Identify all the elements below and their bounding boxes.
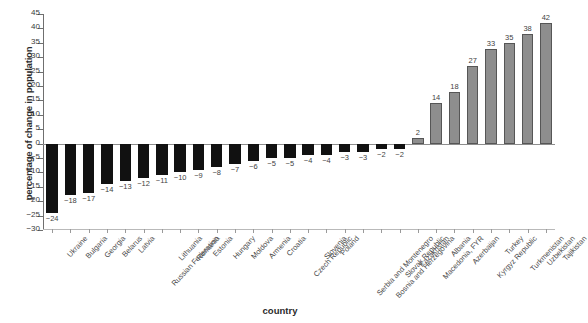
bar [302, 144, 313, 156]
bar-value-label: −2 [385, 150, 414, 159]
bar-value-label: 42 [531, 13, 560, 22]
x-tick-mark [89, 229, 90, 233]
x-tick-mark [107, 229, 108, 233]
y-tick-label: −25 [16, 210, 40, 219]
bar [540, 23, 551, 144]
x-tick-mark [528, 229, 529, 233]
bar-value-label: 38 [513, 24, 542, 33]
x-axis-labels: UkraineBulgariaGeorgiaBelarusLatviaRussi… [43, 234, 555, 304]
bar [211, 144, 222, 167]
x-tick-mark [144, 229, 145, 233]
bar [449, 92, 460, 144]
bar-value-label: 2 [403, 128, 432, 137]
y-tick-label: 5 [16, 123, 40, 132]
bar [339, 144, 350, 153]
bar [101, 144, 112, 184]
x-tick-mark [326, 229, 327, 233]
x-axis-title: country [0, 305, 560, 316]
x-tick-mark [162, 229, 163, 233]
x-tick-mark [345, 229, 346, 233]
x-tick-mark [290, 229, 291, 233]
bar [485, 49, 496, 144]
x-tick-mark [400, 229, 401, 233]
y-tick-label: 40 [16, 22, 40, 31]
bar [65, 144, 76, 196]
bar [394, 144, 405, 150]
y-tick-label: 45 [16, 8, 40, 17]
bar [522, 34, 533, 143]
x-tick-mark [272, 229, 273, 233]
x-tick-mark [198, 229, 199, 233]
y-tick-label: −30 [16, 224, 40, 233]
x-tick-mark [180, 229, 181, 233]
bar [138, 144, 149, 179]
bar [504, 43, 515, 144]
y-tick-label: 30 [16, 51, 40, 60]
y-tick-label: −5 [16, 152, 40, 161]
bar [174, 144, 185, 173]
x-tick-mark [235, 229, 236, 233]
y-tick-label: 10 [16, 109, 40, 118]
y-tick-label: 15 [16, 94, 40, 103]
x-tick-mark [381, 229, 382, 233]
x-tick-mark [253, 229, 254, 233]
x-tick-mark [418, 229, 419, 233]
bar [120, 144, 131, 181]
x-tick-mark [546, 229, 547, 233]
y-tick-label: 20 [16, 80, 40, 89]
bar [193, 144, 204, 170]
plot-bottom-line [43, 229, 555, 230]
x-tick-mark [52, 229, 53, 233]
x-tick-mark [436, 229, 437, 233]
plot-area: 454035302520151050−5−10−15−20−25−30 −24−… [43, 14, 555, 230]
bar [376, 144, 387, 150]
x-tick-mark [217, 229, 218, 233]
y-axis-line [43, 14, 44, 230]
bar-value-label: −24 [38, 214, 67, 223]
y-tick-label: 0 [16, 138, 40, 147]
y-tick-label: −15 [16, 181, 40, 190]
x-tick-mark [308, 229, 309, 233]
y-tick-label: −20 [16, 195, 40, 204]
bar-value-label: 14 [422, 93, 451, 102]
x-tick-mark [454, 229, 455, 233]
y-tick-label: 25 [16, 66, 40, 75]
bar-value-label: −17 [74, 194, 103, 203]
bar [229, 144, 240, 164]
bar-value-label: 35 [495, 33, 524, 42]
y-tick-label: 35 [16, 37, 40, 46]
bar [467, 66, 478, 144]
bar [156, 144, 167, 176]
bar-value-label: 18 [440, 82, 469, 91]
bar-value-label: 27 [458, 56, 487, 65]
bar [266, 144, 277, 158]
x-tick-mark [509, 229, 510, 233]
x-tick-mark [363, 229, 364, 233]
x-tick-mark [125, 229, 126, 233]
y-tick-label: −10 [16, 166, 40, 175]
x-tick-mark [473, 229, 474, 233]
bar [412, 138, 423, 144]
x-tick-mark [70, 229, 71, 233]
bar [430, 103, 441, 143]
x-tick-mark [491, 229, 492, 233]
